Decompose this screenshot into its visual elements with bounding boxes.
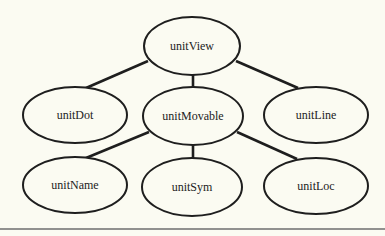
node-label: unitSym xyxy=(172,180,213,194)
class-hierarchy-diagram: unitViewunitDotunitMovableunitLineunitNa… xyxy=(0,0,385,236)
node-label: unitDot xyxy=(57,108,94,122)
node-unitMovable: unitMovable xyxy=(143,87,243,145)
node-label: unitMovable xyxy=(162,109,223,123)
edge-unitView-unitDot xyxy=(86,61,148,88)
node-label: unitName xyxy=(51,178,98,192)
node-unitDot: unitDot xyxy=(23,87,127,143)
node-label: unitLine xyxy=(296,108,337,122)
nodes: unitViewunitDotunitMovableunitLineunitNa… xyxy=(23,17,368,216)
node-unitSym: unitSym xyxy=(142,158,242,216)
node-label: unitView xyxy=(170,39,214,53)
node-label: unitLoc xyxy=(297,179,334,193)
edge-unitView-unitLine xyxy=(236,61,298,88)
node-unitLine: unitLine xyxy=(264,87,368,143)
node-unitName: unitName xyxy=(23,157,127,213)
node-unitView: unitView xyxy=(144,17,240,75)
node-unitLoc: unitLoc xyxy=(264,158,368,214)
